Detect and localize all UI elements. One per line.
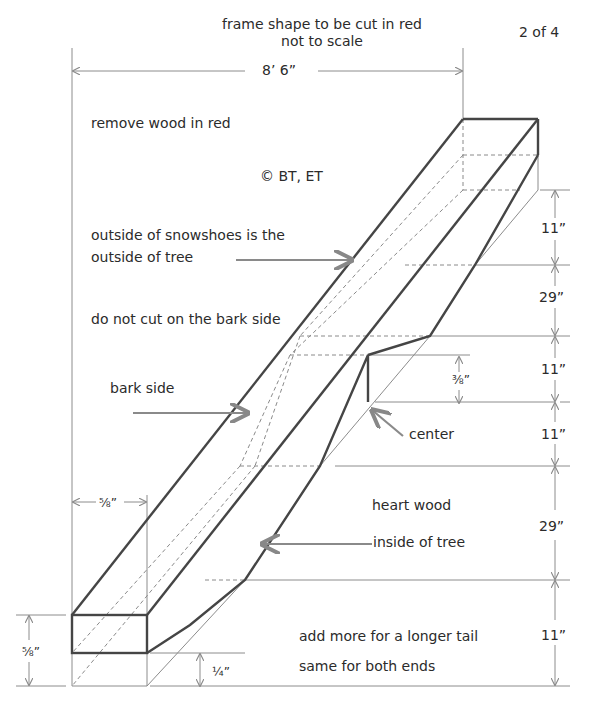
note-outside-line-2: outside of tree [91,249,193,265]
dimension-lines [16,48,570,686]
overall-length-dimension: 8’ 6” [262,62,296,78]
label-inside-of-tree: inside of tree [373,534,465,550]
label-bark-side: bark side [110,380,174,396]
page-indicator: 2 of 4 [519,24,559,40]
pointer-arrows [133,260,403,544]
note-remove-wood: remove wood in red [91,115,231,131]
label-center: center [409,426,454,442]
end-width-dimension: ⅝” [99,495,117,511]
title-line-2: not to scale [172,33,472,49]
center-depth-dimension: ⅜” [452,372,470,388]
right-dimension-3: 11” [541,361,566,377]
right-dimension-5: 29” [539,518,564,534]
note-longer-tail: add more for a longer tail [299,628,478,644]
right-dimension-1: 11” [541,220,566,236]
bottom-thickness-dimension: ¼” [212,664,230,680]
note-both-ends: same for both ends [299,658,435,674]
right-dimension-6: 11” [541,627,566,643]
right-dimension-4: 11” [541,426,566,442]
snowshoe-frame-drawing [0,0,594,722]
label-heart-wood: heart wood [372,497,451,513]
note-outside-line-1: outside of snowshoes is the [91,227,285,243]
end-height-dimension: ⅝” [22,644,40,660]
note-no-cut-bark: do not cut on the bark side [91,311,281,327]
title-line-1: frame shape to be cut in red [172,16,472,32]
right-dimension-2: 29” [539,289,564,305]
copyright-text: © BT, ET [260,168,323,184]
